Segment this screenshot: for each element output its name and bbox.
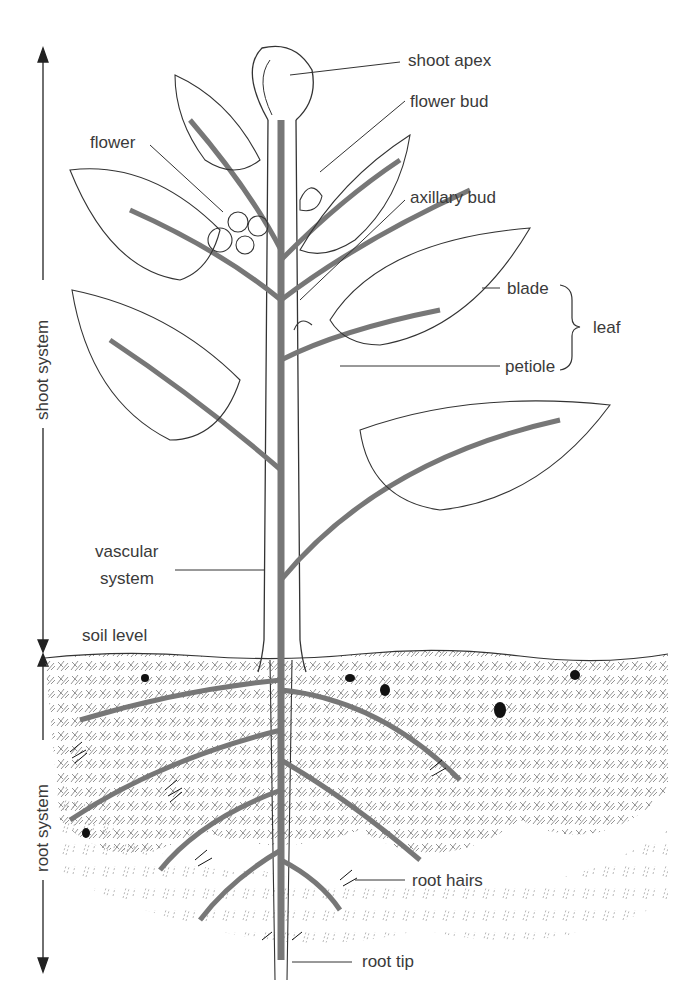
leaf-lower-right bbox=[360, 401, 610, 510]
soil bbox=[45, 650, 668, 942]
flower-drawing bbox=[208, 212, 268, 254]
label-shoot-apex: shoot apex bbox=[408, 52, 491, 69]
label-axillary-bud: axillary bud bbox=[410, 189, 496, 206]
label-flower: flower bbox=[90, 134, 135, 151]
flower-bud-drawing bbox=[300, 188, 322, 211]
label-leaf: leaf bbox=[593, 319, 620, 336]
label-root-system: root system bbox=[34, 784, 51, 872]
label-vascular-system-1: vascular bbox=[95, 543, 158, 560]
label-root-hairs: root hairs bbox=[412, 872, 483, 889]
label-flower-bud: flower bud bbox=[410, 93, 488, 110]
label-soil-level: soil level bbox=[82, 627, 147, 644]
label-petiole: petiole bbox=[505, 358, 555, 375]
label-root-tip: root tip bbox=[362, 953, 414, 970]
label-vascular-system-2: system bbox=[100, 570, 154, 587]
leaf-upper-left bbox=[70, 169, 220, 280]
label-shoot-system: shoot system bbox=[34, 320, 51, 420]
label-blade: blade bbox=[507, 280, 549, 297]
axillary-bud-drawing bbox=[294, 321, 312, 330]
